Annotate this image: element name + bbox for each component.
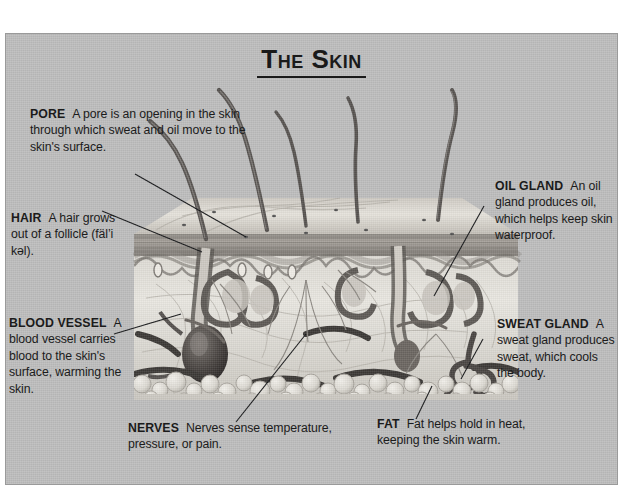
callout-fat-term: FAT <box>377 417 407 431</box>
callout-oil-gland-term: OIL GLAND <box>495 179 570 193</box>
callout-fat: FATFat helps hold in heat, keeping the s… <box>377 416 563 449</box>
callout-hair: HAIRA hair grows out of a follicle (fäl’… <box>11 210 129 259</box>
page-title: The Skin <box>6 44 617 78</box>
callout-blood-vessel: BLOOD VESSELA blood vessel carries blood… <box>9 315 129 397</box>
callout-sweat-gland: SWEAT GLANDA sweat gland produces sweat,… <box>497 316 617 382</box>
callout-oil-gland: OIL GLANDAn oil gland produces oil, whic… <box>495 178 615 244</box>
page-title-text: The Skin <box>257 46 365 78</box>
callout-nerves-term: NERVES <box>128 421 186 435</box>
callout-pore: POREA pore is an opening in the skin thr… <box>30 106 272 155</box>
callout-pore-term: PORE <box>30 107 72 121</box>
callout-nerves: NERVESNerves sense temperature, pressure… <box>128 420 376 453</box>
callout-hair-term: HAIR <box>11 211 49 225</box>
skin-diagram-panel: The Skin POREA pore is an opening in the… <box>5 33 618 485</box>
callout-sweat-gland-term: SWEAT GLAND <box>497 317 596 331</box>
callout-blood-vessel-term: BLOOD VESSEL <box>9 316 114 330</box>
